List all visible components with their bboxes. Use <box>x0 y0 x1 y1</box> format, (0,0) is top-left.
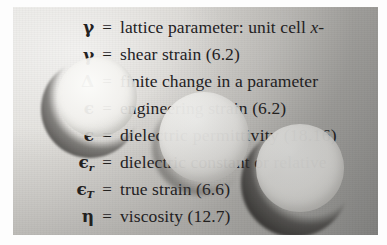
equals-sign: = <box>94 19 120 36</box>
equals-sign: = <box>94 127 120 144</box>
symbol-glossary-list: γ = lattice parameter: unit cell x- γ = … <box>13 7 378 235</box>
scanned-page: γ = lattice parameter: unit cell x- γ = … <box>0 0 387 245</box>
symbol-definition: dielectric permittivity (18.16) <box>120 127 337 145</box>
glossary-entry: γ = shear strain (6.2) <box>13 46 378 71</box>
glossary-entry: ϵT = true strain (6.6) <box>13 181 378 206</box>
symbol-glyph: ϵr <box>13 154 94 173</box>
symbol-definition: viscosity (12.7) <box>120 208 230 226</box>
equals-sign: = <box>94 208 120 225</box>
glossary-entry: ϵr = dielectric constant or relative <box>13 154 378 179</box>
symbol-glyph: Δ <box>13 73 94 90</box>
equals-sign: = <box>94 181 120 198</box>
glossary-entry: ϵ = engineering strain (6.2) <box>13 100 378 125</box>
scan-area: γ = lattice parameter: unit cell x- γ = … <box>13 7 378 235</box>
symbol-definition: lattice parameter: unit cell x- <box>120 19 324 37</box>
equals-sign: = <box>94 100 120 117</box>
glossary-entry: ϵ = dielectric permittivity (18.16) <box>13 127 378 152</box>
glossary-entry: γ = lattice parameter: unit cell x- <box>13 19 378 44</box>
symbol-definition: dielectric constant or relative <box>120 154 327 172</box>
glossary-entry: Δ = finite change in a parameter <box>13 73 378 98</box>
symbol-definition: engineering strain (6.2) <box>120 100 286 118</box>
symbol-glyph: γ <box>13 47 94 64</box>
equals-sign: = <box>94 154 120 171</box>
symbol-subscript: T <box>87 189 94 200</box>
symbol-glyph: γ <box>13 19 94 36</box>
equals-sign: = <box>94 73 120 90</box>
symbol-definition: finite change in a parameter <box>120 73 318 91</box>
definition-italic-part: x- <box>310 17 324 37</box>
symbol-glyph: ϵT <box>13 181 94 200</box>
glossary-entry: η = viscosity (12.7) <box>13 208 378 233</box>
symbol-definition: shear strain (6.2) <box>120 46 240 64</box>
symbol-glyph: ϵ <box>13 127 94 144</box>
symbol-glyph: η <box>13 208 94 225</box>
symbol-glyph: ϵ <box>13 100 94 117</box>
equals-sign: = <box>94 46 120 63</box>
symbol-definition: true strain (6.6) <box>120 181 230 199</box>
